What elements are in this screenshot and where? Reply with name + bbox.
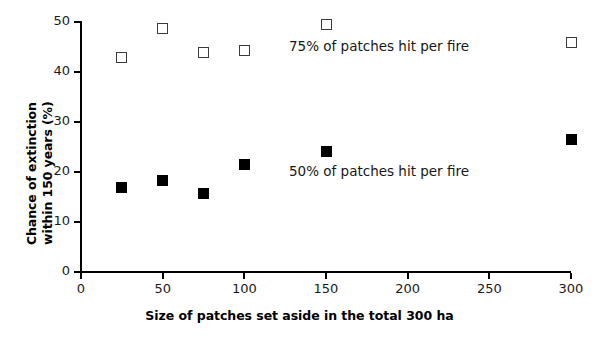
data-point-marker bbox=[239, 159, 250, 170]
y-axis-label-line-1: Chance of extinction bbox=[24, 102, 39, 245]
x-tick-mark bbox=[488, 273, 490, 279]
y-tick-label: 30 bbox=[44, 113, 70, 128]
y-tick-label: 40 bbox=[44, 63, 70, 78]
x-tick-label: 300 bbox=[551, 281, 591, 296]
y-tick-mark bbox=[74, 21, 80, 23]
x-tick-mark bbox=[570, 273, 572, 279]
x-tick-mark bbox=[325, 273, 327, 279]
data-point-marker bbox=[157, 23, 168, 34]
y-tick-label: 50 bbox=[44, 13, 70, 28]
y-tick-label: 20 bbox=[44, 163, 70, 178]
x-tick-label: 0 bbox=[61, 281, 101, 296]
data-point-marker bbox=[116, 182, 127, 193]
x-tick-mark bbox=[243, 273, 245, 279]
x-tick-label: 50 bbox=[143, 281, 183, 296]
series-label-50-percent: 50% of patches hit per fire bbox=[289, 163, 469, 179]
x-tick-mark bbox=[162, 273, 164, 279]
data-point-marker bbox=[198, 47, 209, 58]
x-tick-label: 150 bbox=[306, 281, 346, 296]
data-point-marker bbox=[198, 188, 209, 199]
x-axis-label: Size of patches set aside in the total 3… bbox=[0, 308, 599, 323]
x-tick-label: 100 bbox=[224, 281, 264, 296]
y-tick-mark bbox=[74, 221, 80, 223]
y-tick-mark bbox=[74, 171, 80, 173]
series-label-75-percent: 75% of patches hit per fire bbox=[289, 38, 469, 54]
x-tick-mark bbox=[80, 273, 82, 279]
data-point-marker bbox=[321, 19, 332, 30]
data-point-marker bbox=[566, 37, 577, 48]
y-tick-label: 0 bbox=[44, 263, 70, 278]
data-point-marker bbox=[116, 52, 127, 63]
data-point-marker bbox=[321, 146, 332, 157]
x-tick-mark bbox=[407, 273, 409, 279]
y-axis-line bbox=[80, 21, 82, 273]
data-point-marker bbox=[157, 175, 168, 186]
y-tick-label: 10 bbox=[44, 213, 70, 228]
data-point-marker bbox=[566, 134, 577, 145]
data-point-marker bbox=[239, 45, 250, 56]
y-axis-label: Chance of extinction within 150 years (%… bbox=[0, 0, 60, 290]
x-tick-label: 250 bbox=[469, 281, 509, 296]
extinction-risk-scatter-chart: Chance of extinction within 150 years (%… bbox=[0, 0, 599, 339]
y-tick-mark bbox=[74, 71, 80, 73]
y-tick-mark bbox=[74, 121, 80, 123]
x-tick-label: 200 bbox=[388, 281, 428, 296]
